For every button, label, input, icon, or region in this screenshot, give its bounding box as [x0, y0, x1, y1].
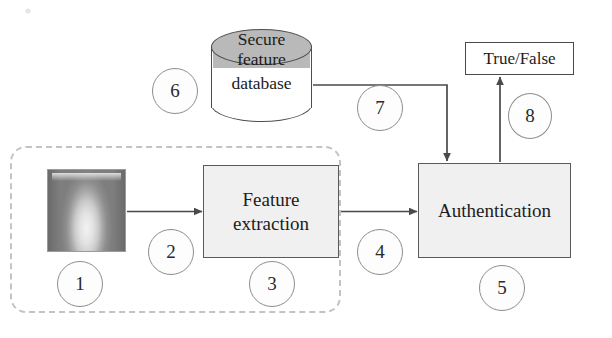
step-circle-5: 5 [479, 265, 525, 311]
authentication-box: Authentication [418, 163, 571, 258]
fingerprint-top-sheen [52, 173, 121, 181]
secure-feature-database: Secure feature database [211, 29, 312, 122]
step-circle-7: 7 [357, 85, 403, 131]
step-circle-3: 3 [249, 261, 295, 307]
database-label-top: Secure feature [211, 30, 312, 69]
feature-extraction-box: Feature extraction [203, 165, 339, 258]
result-label: True/False [483, 49, 555, 69]
step-circle-4: 4 [357, 229, 403, 275]
step-circle-2: 2 [148, 229, 194, 275]
database-label-line3: database [211, 73, 312, 94]
step-circle-6: 6 [152, 68, 198, 114]
step-circle-1: 1 [57, 261, 103, 307]
database-label-line2: feature [211, 50, 312, 70]
database-label-line1: Secure [211, 30, 312, 50]
fingerprint-right-shadow [113, 170, 125, 251]
fingerprint-sample-image [47, 169, 126, 252]
diagram-canvas: Secure feature database Feature extracti… [0, 0, 612, 338]
step-circle-8: 8 [508, 93, 552, 139]
feature-extraction-label-line1: Feature [233, 188, 309, 211]
scan-speck-artifact [25, 8, 30, 13]
fingerprint-left-shadow [48, 170, 60, 251]
result-box: True/False [465, 42, 574, 75]
feature-extraction-label-line2: extraction [233, 212, 309, 235]
authentication-label: Authentication [438, 199, 551, 222]
